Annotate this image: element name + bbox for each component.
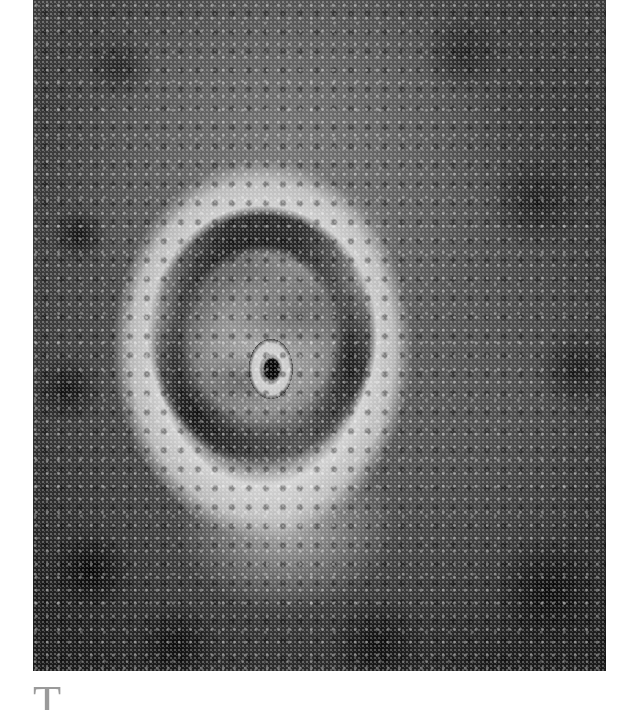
paragraph-drop-cap: T [33, 680, 61, 710]
hurricane-satellite-image [33, 0, 606, 671]
document-page: T [0, 0, 638, 710]
dot-matrix-texture [33, 0, 606, 671]
